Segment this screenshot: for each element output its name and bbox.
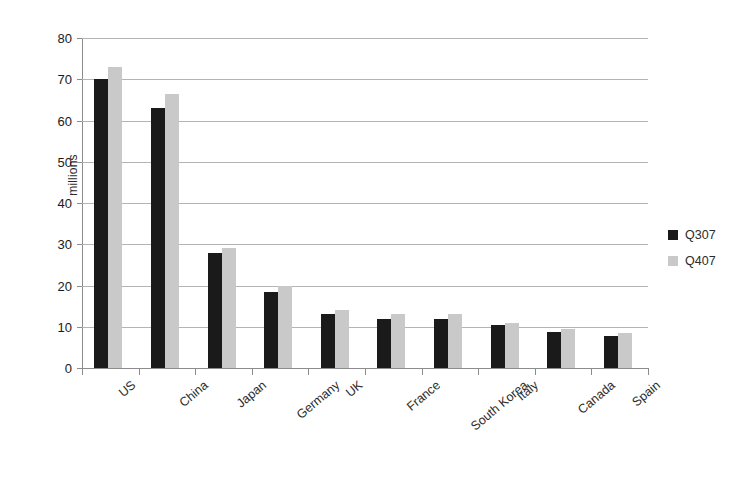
x-axis-category-label: China bbox=[177, 378, 211, 410]
legend-item[interactable]: Q407 bbox=[668, 248, 716, 274]
x-axis-tick-mark bbox=[139, 368, 140, 375]
y-axis-title: millions bbox=[66, 120, 80, 230]
bar-group bbox=[208, 38, 236, 368]
x-axis-tick-mark bbox=[535, 368, 536, 375]
bar bbox=[165, 94, 179, 368]
bar bbox=[151, 108, 165, 368]
bar bbox=[547, 332, 561, 368]
bar-group bbox=[547, 38, 575, 368]
plot-area bbox=[82, 38, 648, 368]
y-axis-tick-label: 20 bbox=[26, 280, 72, 293]
bar-group bbox=[377, 38, 405, 368]
legend-item-label: Q407 bbox=[685, 254, 716, 268]
bar bbox=[222, 248, 236, 368]
x-axis-category-label: US bbox=[116, 378, 138, 400]
x-axis-category-label: Canada bbox=[575, 378, 618, 417]
bar bbox=[377, 319, 391, 369]
bar-group bbox=[151, 38, 179, 368]
bar bbox=[618, 333, 632, 368]
bar bbox=[108, 67, 122, 368]
bar bbox=[434, 319, 448, 369]
legend: Q307 Q407 bbox=[668, 222, 716, 274]
y-axis-tick-label: 30 bbox=[26, 238, 72, 251]
x-axis-category-label: France bbox=[404, 378, 443, 414]
bar bbox=[94, 79, 108, 368]
x-axis-tick-mark bbox=[252, 368, 253, 375]
bar-group bbox=[491, 38, 519, 368]
bar-group bbox=[264, 38, 292, 368]
bar bbox=[208, 253, 222, 369]
bar-chart: millions 01020304050607080 USChinaJapanG… bbox=[0, 0, 755, 480]
x-axis-tick-mark bbox=[478, 368, 479, 375]
bar bbox=[448, 314, 462, 368]
y-axis-tick-label: 70 bbox=[26, 73, 72, 86]
x-axis-category-label: UK bbox=[343, 378, 365, 400]
bar bbox=[491, 325, 505, 368]
light-square-swatch-icon bbox=[668, 256, 678, 266]
x-axis-tick-mark bbox=[648, 368, 649, 375]
x-axis-category-label: Japan bbox=[233, 378, 268, 411]
legend-item[interactable]: Q307 bbox=[668, 222, 716, 248]
x-axis-tick-mark bbox=[591, 368, 592, 375]
y-axis-tick-label: 50 bbox=[26, 156, 72, 169]
x-axis-category-label: Spain bbox=[629, 378, 663, 409]
y-axis-tick-label: 80 bbox=[26, 32, 72, 45]
x-axis-tick-mark bbox=[365, 368, 366, 375]
x-axis-category-label: Germany bbox=[294, 378, 342, 422]
bar bbox=[335, 310, 349, 368]
y-axis-tick-label: 10 bbox=[26, 321, 72, 334]
x-axis-tick-mark bbox=[82, 368, 83, 375]
y-axis-tick-label: 40 bbox=[26, 197, 72, 210]
bar bbox=[505, 323, 519, 368]
x-axis-tick-mark bbox=[422, 368, 423, 375]
bar bbox=[321, 314, 335, 368]
bar bbox=[278, 286, 292, 369]
dark-square-swatch-icon bbox=[668, 230, 678, 240]
bar-group bbox=[321, 38, 349, 368]
legend-item-label: Q307 bbox=[685, 228, 716, 242]
x-axis-tick-mark bbox=[308, 368, 309, 375]
bar-group bbox=[94, 38, 122, 368]
bar bbox=[391, 314, 405, 368]
bar-group bbox=[604, 38, 632, 368]
bar bbox=[604, 336, 618, 368]
bar bbox=[561, 329, 575, 368]
bar-group bbox=[434, 38, 462, 368]
x-axis-tick-mark bbox=[195, 368, 196, 375]
y-axis-tick-label: 60 bbox=[26, 115, 72, 128]
bar bbox=[264, 292, 278, 368]
y-axis-tick-label: 0 bbox=[26, 362, 72, 375]
